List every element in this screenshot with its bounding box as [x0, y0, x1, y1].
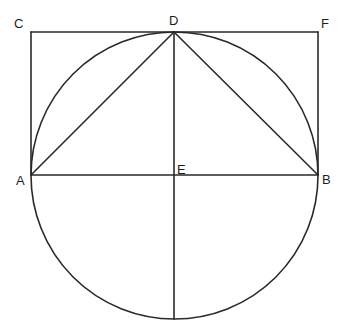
label-f: F	[321, 16, 329, 31]
segment-db	[174, 32, 318, 175]
label-a: A	[16, 173, 25, 188]
geometry-diagram: C D F A E B	[0, 0, 342, 334]
label-d: D	[169, 13, 178, 28]
label-b: B	[322, 172, 331, 187]
segment-da	[31, 32, 174, 175]
label-c: C	[14, 16, 23, 31]
label-e: E	[177, 162, 186, 177]
